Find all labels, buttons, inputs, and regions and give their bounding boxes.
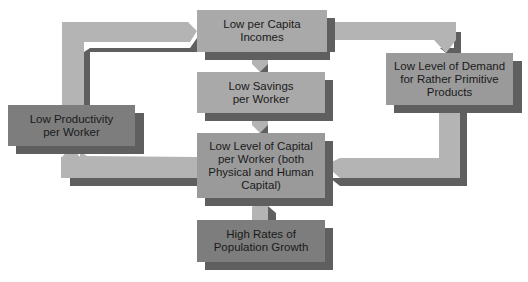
arrow-demand-to-capital [325, 106, 467, 186]
shadow [205, 113, 333, 121]
shadow [16, 146, 144, 154]
shadow [135, 113, 144, 146]
node-label: High Rates of Population Growth [211, 228, 311, 254]
arrow-productivity-to-incomes [62, 22, 197, 110]
arrow-incomes-to-demand [327, 22, 461, 53]
shadow [205, 262, 333, 270]
node-low-productivity-per-worker: Low Productivity per Worker [8, 105, 135, 146]
node-high-rates-of-population-growth: High Rates of Population Growth [197, 220, 325, 262]
shadow [325, 228, 333, 262]
shadow [205, 52, 330, 60]
node-low-level-of-capital: Low Level of Capital per Worker (both Ph… [197, 133, 325, 198]
node-label: Low Level of Demand for Rather Primitive… [394, 60, 506, 99]
shadow [327, 18, 335, 52]
shadow [394, 105, 522, 113]
node-label: Low per Capita Incomes [215, 18, 310, 44]
node-label: Low Level of Capital per Worker (both Ph… [206, 140, 316, 192]
node-low-per-capita-incomes: Low per Capita Incomes [197, 10, 327, 52]
node-low-level-of-demand: Low Level of Demand for Rather Primitive… [386, 53, 513, 105]
shadow [513, 61, 522, 105]
shadow [325, 141, 333, 198]
shadow [325, 80, 333, 113]
node-low-savings-per-worker: Low Savings per Worker [197, 72, 325, 113]
vicious-circle-diagram: Low per Capita Incomes Low Savings per W… [0, 0, 528, 282]
shadow [205, 198, 333, 206]
node-label: Low Productivity per Worker [27, 113, 117, 139]
node-label: Low Savings per Worker [221, 80, 301, 106]
